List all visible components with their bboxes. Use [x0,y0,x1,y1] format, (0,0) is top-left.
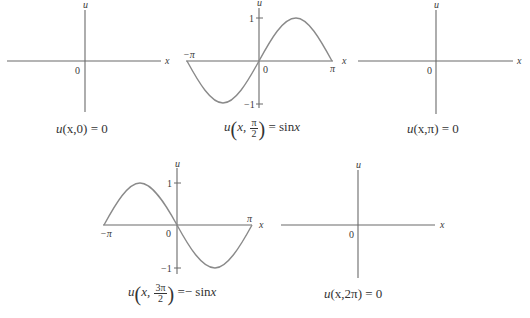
fraction: 3π2 [154,283,166,304]
tick-label-pi: π [330,63,336,74]
tick-label-pi: π [247,213,253,224]
caption-t0: u(x,0) = 0 [56,121,108,137]
panel-t-3pi-over-2: u 1 −1 −π π 0 x [100,158,264,274]
caption-arg-x: x, [141,284,150,299]
tick-label-neg-pi: −π [183,49,196,60]
tick-label-neg-1: −1 [244,99,255,110]
tick-label-1: 1 [167,178,172,189]
caption-args: (x,0) [63,121,88,136]
origin-label: 0 [166,228,171,239]
caption-eq: = sin [268,119,294,134]
caption-t-pi: u(x,π) = 0 [407,121,459,137]
figure-canvas: u x 0 u 1 −1 −π π 0 x u x 0 u 1 −1 −π π [0,0,530,318]
caption-arg-x: x, [237,119,246,134]
caption-t-2pi: u(x,2π) = 0 [324,286,382,302]
fraction: π2 [250,118,257,139]
panel-t0: u x 0 [7,0,170,112]
caption-t-pi-over-2: u(x, π2) = sinx [224,118,300,139]
x-axis-label: x [516,55,522,66]
caption-args: (x,π) [414,121,439,136]
tick-label-1: 1 [249,13,254,24]
paren-close: ) [168,283,175,305]
u-axis-label: u [434,0,439,10]
caption-eq: = 0 [442,121,459,136]
tick-label-neg-1: −1 [161,263,172,274]
caption-eq: = 0 [365,286,382,301]
caption-eq: = 0 [91,121,108,136]
paren-close: ) [259,118,266,140]
u-axis-label: u [356,159,361,170]
frac-denominator: 2 [154,294,166,304]
caption-var: x [294,119,300,134]
panel-t-2pi: u x 0 [281,159,445,278]
origin-label: 0 [427,65,432,76]
panel-t-pi: u x 0 [358,0,522,114]
origin-label: 0 [263,64,268,75]
x-axis-label: x [258,219,264,230]
u-axis-label: u [175,158,180,169]
u-axis-label: u [83,0,88,10]
tick-label-neg-pi: −π [100,228,113,239]
x-axis-label: x [341,55,347,66]
caption-t-3pi-over-2: u(x, 3π2) =− sinx [128,283,216,304]
caption-args: (x,2π) [331,286,362,301]
origin-label: 0 [349,229,354,240]
x-axis-label: x [439,219,445,230]
origin-label: 0 [75,65,80,76]
u-axis-label: u [257,0,262,8]
panel-t-pi-over-2: u 1 −1 −π π 0 x [183,0,347,110]
x-axis-label: x [164,55,170,66]
caption-eq: =− sin [177,284,210,299]
caption-var: x [211,284,217,299]
frac-denominator: 2 [250,129,257,139]
